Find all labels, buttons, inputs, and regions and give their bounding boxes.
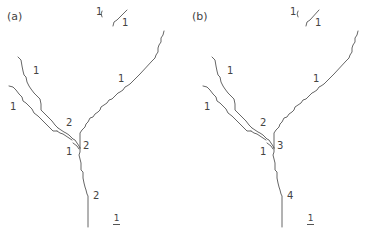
panel-a: (a) 1 1 1 1 1 2 1 2 2 1: [0, 0, 185, 239]
right-tributary: [80, 31, 164, 148]
order-label-merged-left: 2: [260, 118, 266, 128]
order-label-junction-small-tributary: 1: [66, 147, 72, 157]
order-label-trunk: 2: [93, 191, 99, 201]
order-label-right-tributary: 1: [118, 74, 124, 84]
order-label-junction-main: 3: [277, 141, 283, 151]
main-trunk: [273, 148, 282, 227]
order-label-right-tributary: 1: [313, 74, 319, 84]
order-label-junction-main: 2: [83, 141, 89, 151]
order-label-top-fragment-right: 1: [315, 18, 321, 28]
order-label-left-tributary: 1: [10, 102, 16, 112]
scale-bar-a: 1: [113, 214, 120, 225]
order-label-junction-small-tributary: 1: [260, 147, 266, 157]
right-tributary: [274, 31, 358, 148]
order-label-left-tributary: 1: [204, 102, 210, 112]
stream-network-a: [0, 0, 185, 239]
order-label-top-fragment-right: 1: [122, 18, 128, 28]
scale-bar-b: 1: [307, 214, 314, 225]
order-label-upper-left-tributary: 1: [227, 66, 233, 76]
order-label-upper-left-tributary: 1: [33, 66, 39, 76]
order-label-top-fragment-left: 1: [290, 7, 296, 17]
panel-b: (b) 1 1 1 1 1 2 1 3 4 1: [185, 0, 369, 239]
order-label-trunk: 4: [287, 191, 293, 201]
top-fragment-tick: [297, 11, 298, 17]
stream-network-b: [185, 0, 369, 239]
main-trunk: [79, 148, 88, 227]
order-label-merged-left: 2: [66, 118, 72, 128]
order-label-top-fragment-left: 1: [96, 7, 102, 17]
